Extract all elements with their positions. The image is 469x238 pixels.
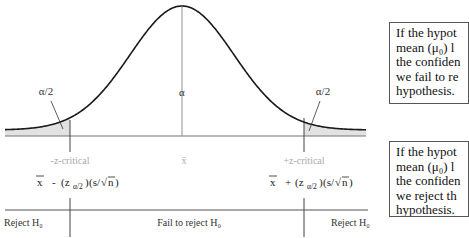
center-xbar-label: x̄ xyxy=(182,155,187,166)
lower-bound-formula: x - (z α/2 ) (s/ √ n ) xyxy=(36,176,119,191)
right-reject-region-label: Reject H₀ xyxy=(331,217,370,228)
upper-bound-formula: x + (z α/2 ) (s/ √ n ) xyxy=(269,176,353,191)
left-reject-region-label: Reject H₀ xyxy=(4,217,43,228)
se-close: ) xyxy=(349,176,353,189)
z-open: (z xyxy=(61,176,70,189)
se-open: (s/ xyxy=(89,176,101,189)
reject-note: If the hypot mean (μ₀) l the confiden we… xyxy=(389,141,469,217)
note-line: we reject th xyxy=(396,189,468,204)
se-open: (s/ xyxy=(323,176,335,189)
left-critical-label: -z-critical xyxy=(51,155,90,166)
fail-to-reject-note: If the hypot mean (μ₀) l the confiden we… xyxy=(389,22,469,104)
note-line: hypothesis. xyxy=(396,203,468,217)
n-symbol: n xyxy=(342,176,348,188)
note-line: If the hypot xyxy=(396,26,468,41)
normal-curve xyxy=(5,6,366,130)
sqrt-symbol: √ xyxy=(101,176,108,188)
n-symbol: n xyxy=(108,176,114,188)
fail-to-reject-region-label: Fail to reject H₀ xyxy=(157,217,221,228)
se-close: ) xyxy=(115,176,119,189)
plus-operator: + xyxy=(285,176,291,188)
sqrt-symbol: √ xyxy=(335,176,342,188)
center-alpha-label: α xyxy=(179,86,185,98)
xbar-symbol: x xyxy=(270,176,276,188)
note-line: hypothesis. xyxy=(396,84,468,99)
note-line: mean (μ₀) l xyxy=(396,160,468,175)
z-subscript: α/2 xyxy=(307,182,317,191)
z-subscript: α/2 xyxy=(73,182,83,191)
z-open: (z xyxy=(295,176,304,189)
left-tail-label: α/2 xyxy=(39,85,53,97)
right-tail-label: α/2 xyxy=(316,85,330,97)
note-line: the confiden xyxy=(396,174,468,189)
note-line: mean (μ₀) l xyxy=(396,41,468,56)
note-line: the confiden xyxy=(396,55,468,70)
xbar-symbol: x xyxy=(37,176,43,188)
note-line: If the hypot xyxy=(396,145,468,160)
minus-operator: - xyxy=(52,176,56,188)
note-line: we fail to re xyxy=(396,70,468,85)
right-critical-label: +z-critical xyxy=(283,155,324,166)
